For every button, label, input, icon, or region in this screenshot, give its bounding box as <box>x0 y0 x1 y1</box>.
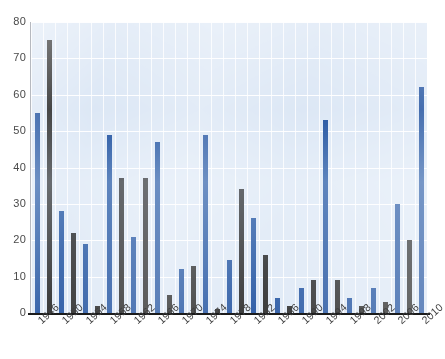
gridline-vertical <box>295 22 296 313</box>
bar <box>395 204 400 313</box>
bar <box>239 189 244 313</box>
y-tick-label: 40 <box>0 161 26 173</box>
bar <box>179 269 184 313</box>
gridline-vertical <box>199 22 200 313</box>
gridline-vertical <box>151 22 152 313</box>
bar <box>251 218 256 313</box>
gridline-vertical <box>79 22 80 313</box>
gridline-vertical <box>307 22 308 313</box>
gridline-vertical <box>163 22 164 313</box>
bar <box>35 113 40 313</box>
bar <box>83 244 88 313</box>
gridline-vertical <box>271 22 272 313</box>
gridline-vertical <box>403 22 404 313</box>
gridline-vertical <box>343 22 344 313</box>
gridline-vertical <box>103 22 104 313</box>
gridline-vertical <box>319 22 320 313</box>
gridline-vertical <box>235 22 236 313</box>
y-tick-label: 10 <box>0 270 26 282</box>
gridline-vertical <box>415 22 416 313</box>
gridline-vertical <box>247 22 248 313</box>
y-tick-label: 80 <box>0 15 26 27</box>
bar <box>119 178 124 313</box>
gridline-vertical <box>223 22 224 313</box>
gridline-vertical <box>391 22 392 313</box>
y-axis-line <box>30 22 31 314</box>
bar <box>131 237 136 313</box>
gridline-vertical <box>55 22 56 313</box>
gridline-vertical <box>379 22 380 313</box>
y-tick-label: 20 <box>0 233 26 245</box>
y-tick-label: 70 <box>0 51 26 63</box>
gridline-vertical <box>127 22 128 313</box>
bar <box>419 87 424 313</box>
y-tick-label: 50 <box>0 124 26 136</box>
bar <box>155 142 160 313</box>
y-tick-label: 30 <box>0 197 26 209</box>
gridline-vertical <box>115 22 116 313</box>
bar <box>107 135 112 313</box>
gridline-vertical <box>355 22 356 313</box>
bar <box>203 135 208 313</box>
gridline-vertical <box>283 22 284 313</box>
gridline-vertical <box>139 22 140 313</box>
gridline-vertical <box>31 22 32 313</box>
plot-area <box>31 22 427 313</box>
bar <box>227 260 232 313</box>
bar <box>323 120 328 313</box>
gridline-vertical <box>211 22 212 313</box>
bar <box>143 178 148 313</box>
gridline-vertical <box>67 22 68 313</box>
gridline-vertical <box>91 22 92 313</box>
bar <box>47 40 52 313</box>
gridline-vertical <box>367 22 368 313</box>
y-tick-label: 0 <box>0 306 26 318</box>
gridline-vertical <box>331 22 332 313</box>
y-tick-label: 60 <box>0 88 26 100</box>
gridline-vertical <box>187 22 188 313</box>
gridline-vertical <box>259 22 260 313</box>
gridline-vertical <box>43 22 44 313</box>
gridline-vertical <box>175 22 176 313</box>
bar <box>59 211 64 313</box>
